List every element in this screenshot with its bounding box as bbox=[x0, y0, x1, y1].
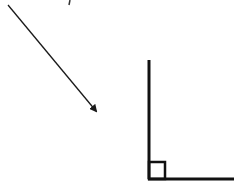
arrow bbox=[8, 5, 96, 111]
right-angle-marker bbox=[149, 162, 165, 179]
top-cut-mark bbox=[69, 0, 70, 5]
diagram-canvas bbox=[0, 0, 234, 182]
